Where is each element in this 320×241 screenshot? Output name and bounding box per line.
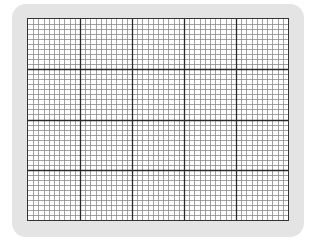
graph-paper-grid xyxy=(27,18,289,221)
grid-lines xyxy=(28,19,288,220)
